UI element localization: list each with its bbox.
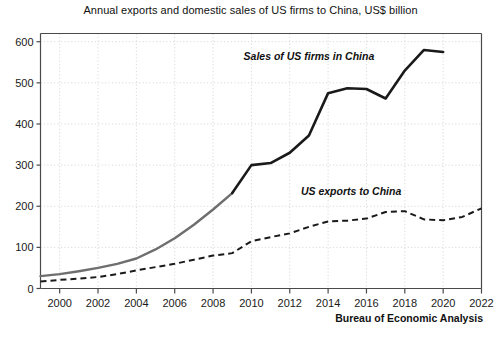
y-axis-tick-label: 300: [15, 159, 33, 171]
chart-figure: Annual exports and domestic sales of US …: [0, 0, 501, 342]
x-axis-tick-label: 2000: [47, 297, 71, 309]
x-axis-tick-label: 2014: [316, 297, 340, 309]
y-axis-tick-label: 100: [15, 241, 33, 253]
y-axis-tick-label: 400: [15, 118, 33, 130]
x-axis-tick-label: 2022: [469, 297, 493, 309]
source-credit: Bureau of Economic Analysis: [335, 312, 483, 324]
series-line-solid: [232, 50, 443, 193]
y-axis-tick-label: 500: [15, 77, 33, 89]
series-annotations: Sales of US firms in ChinaUS exports to …: [244, 50, 402, 196]
axis-tick-labels: 0100200300400500600200020022004200620082…: [15, 36, 494, 309]
series-annotation-label: Sales of US firms in China: [244, 50, 375, 62]
chart-plot-area: 0100200300400500600200020022004200620082…: [0, 0, 501, 342]
x-axis-tick-label: 2004: [124, 297, 148, 309]
x-axis-tick-label: 2008: [201, 297, 225, 309]
y-axis-tick-label: 0: [27, 283, 33, 295]
x-axis-tick-label: 2018: [393, 297, 417, 309]
x-axis-tick-label: 2002: [86, 297, 110, 309]
y-axis-tick-label: 600: [15, 36, 33, 48]
y-axis-tick-label: 200: [15, 200, 33, 212]
gridlines: [41, 34, 482, 289]
series-annotation-label: US exports to China: [301, 185, 402, 197]
plot-frame: [41, 34, 482, 289]
x-axis-tick-label: 2016: [354, 297, 378, 309]
axis-ticks: [37, 42, 482, 294]
x-axis-tick-label: 2020: [431, 297, 455, 309]
x-axis-tick-label: 2010: [239, 297, 263, 309]
x-axis-tick-label: 2006: [162, 297, 186, 309]
series-line-dashed: [41, 208, 482, 281]
x-axis-tick-label: 2012: [278, 297, 302, 309]
data-series: [41, 50, 482, 282]
